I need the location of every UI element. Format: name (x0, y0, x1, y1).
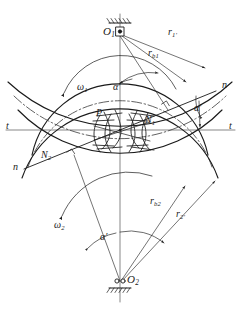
label-pitch-point-p: P (96, 108, 102, 118)
rotation-arrow-omega2 (62, 172, 152, 216)
label-tangent-left: t (6, 121, 9, 131)
diagram-canvas (0, 0, 241, 310)
radius-lines-upper (120, 35, 205, 110)
label-base-radius-upper: rb1 (148, 48, 159, 59)
label-action-line-right: n (222, 80, 227, 90)
label-contact-n2: N2 (41, 150, 51, 161)
label-pressure-angle-top: α′ (113, 82, 120, 92)
label-action-line-left: n (13, 162, 18, 172)
angle-arc-alpha-top (120, 72, 158, 83)
label-pressure-angle-right: α′ (194, 103, 201, 113)
label-tangent-right: t (229, 121, 232, 131)
label-omega-2: ω2 (54, 220, 65, 231)
label-omega-1: ω1 (77, 82, 88, 93)
pitch-point-marker (119, 129, 121, 131)
label-pitch-radius-upper: r1′ (168, 27, 177, 38)
right-angle-mark-n2 (67, 149, 75, 154)
gear-meshing-diagram: O1 O2 P N1 N2 r1′ rb1 rb2 r2′ ω1 ω2 α′ α… (0, 0, 241, 310)
label-pressure-angle-bottom: α′ (100, 232, 107, 242)
label-center-o1: O1 (103, 26, 115, 39)
label-contact-n1: N1 (145, 115, 155, 126)
label-center-o2: O2 (127, 274, 139, 287)
label-base-radius-lower: rb2 (150, 196, 161, 207)
label-pitch-radius-lower: r2′ (176, 209, 185, 220)
